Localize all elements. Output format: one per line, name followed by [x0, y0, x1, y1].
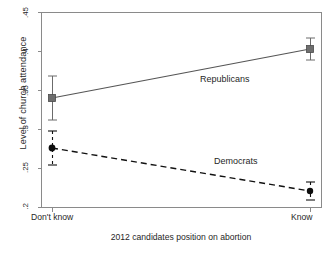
- democrats-line: [52, 148, 310, 191]
- chart-figure: Level of church attendance .45 .4 .35 .3…: [0, 0, 336, 253]
- series-republicans: Republicans: [48, 38, 315, 120]
- democrats-marker-know: [307, 188, 313, 194]
- republicans-marker-know: [307, 46, 314, 53]
- republicans-series-label: Republicans: [200, 74, 250, 84]
- series-democrats: Democrats: [48, 131, 315, 200]
- democrats-series-label: Democrats: [214, 156, 258, 166]
- republicans-marker-dont-know: [49, 95, 56, 102]
- republicans-line: [52, 49, 310, 98]
- plot-area: Republicans Democrats: [0, 0, 336, 253]
- y-tick-marks: [38, 13, 42, 208]
- axis-frame: [42, 13, 322, 208]
- democrats-marker-dont-know: [49, 145, 56, 152]
- x-tick-marks: [53, 208, 311, 212]
